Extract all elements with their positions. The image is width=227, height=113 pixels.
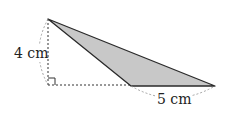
right-angle-marker [48,78,55,85]
triangle-diagram: 4 cm 5 cm [0,0,227,113]
base-label: 5 cm [157,91,191,107]
shaded-triangle [48,19,215,86]
height-label: 4 cm [14,45,48,61]
